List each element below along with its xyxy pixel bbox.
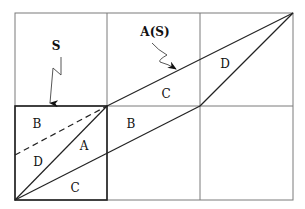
label-s: S	[52, 39, 61, 53]
region-b-outside: B	[127, 117, 136, 131]
square-diagonal	[15, 106, 107, 200]
region-b-in-square: B	[33, 117, 42, 131]
diagram-canvas: S A(S) B A D C B C D	[0, 0, 305, 209]
region-c-outside: C	[161, 87, 170, 101]
arrow-a-of-s-icon	[152, 43, 176, 69]
region-d-in-square: D	[33, 155, 43, 169]
arrow-s-icon	[50, 57, 61, 103]
region-c-in-square: C	[70, 181, 79, 195]
label-a-of-s: A(S)	[139, 25, 169, 39]
parallelogram-right-edge	[200, 13, 293, 106]
region-a-in-square: A	[79, 139, 89, 153]
region-d-outside: D	[220, 57, 230, 71]
dashed-line	[15, 106, 107, 155]
